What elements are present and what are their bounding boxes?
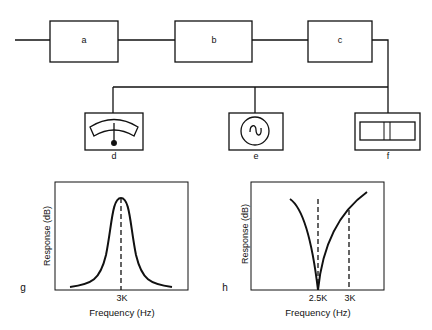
chart-h-curve (290, 192, 367, 290)
meter-pivot-icon (112, 141, 117, 146)
sine-wave-icon (250, 126, 261, 135)
chart-h-xlabel: Frequency (Hz) (285, 307, 350, 318)
instrument-d-label: d (111, 151, 116, 161)
output-wire (372, 40, 388, 113)
display-box (355, 113, 420, 150)
block-c-label: c (338, 35, 343, 45)
chart-h-ylabel: Response (dB) (240, 204, 250, 264)
chart-h-tick-2-5k: 2.5K (309, 293, 328, 303)
chart-h-panel-label: h (222, 282, 228, 293)
chart-g-xlabel: Frequency (Hz) (89, 307, 154, 318)
block-b-label: b (211, 35, 216, 45)
block-a-label: a (81, 35, 86, 45)
chart-g-ylabel: Response (dB) (42, 206, 52, 266)
chart-h-tick-3k: 3K (344, 293, 355, 303)
diagram-canvas (0, 0, 432, 330)
instrument-f-label: f (387, 151, 390, 161)
generator-dial-icon (241, 117, 269, 145)
chart-g-panel-label: g (20, 282, 26, 293)
instrument-e-label: e (253, 151, 258, 161)
display-window-icon (360, 122, 415, 140)
chart-g-tick-3k: 3K (116, 293, 127, 303)
